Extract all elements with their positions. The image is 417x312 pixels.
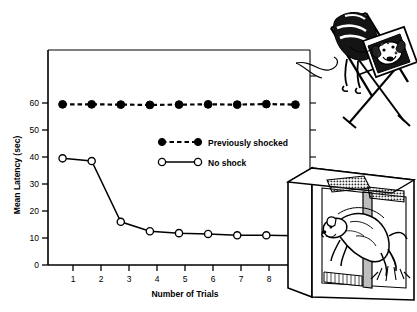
learned-helplessness-figure: 0 10 20 30 40 50 60 Mean Latency (sec) 1… [0,0,417,312]
data-series-layer [59,100,300,239]
x-tick-label-5: 5 [183,274,188,284]
data-point [88,100,96,108]
chart-legend: Previously shocked No shock [158,138,287,168]
data-point [117,101,125,109]
data-point [59,100,67,108]
legend-marker-filled-circle [194,138,201,145]
data-point [205,230,212,237]
x-tick-label-6: 6 [211,274,216,284]
data-point [233,101,241,109]
x-axis-ticks [73,265,297,271]
series-no-shock [59,155,299,240]
legend-marker-filled-circle [158,138,165,145]
x-tick-label-7: 7 [239,274,244,284]
chart-canvas: 0 10 20 30 40 50 60 Mean Latency (sec) 1… [0,0,417,312]
legend-label-previously-shocked: Previously shocked [208,138,288,148]
y-axis-ticks [42,103,48,265]
legend-label-no-shock: No shock [208,158,247,168]
data-point [117,218,124,225]
x-tick-label-8: 8 [267,274,272,284]
series-line [63,158,296,235]
y-tick-label-0: 0 [34,260,39,270]
data-point [59,155,66,162]
legend-marker-open-circle [158,158,165,165]
x-axis-title: Number of Trials [151,289,218,299]
data-point [175,101,183,109]
y-tick-label-30: 30 [30,179,40,189]
data-point [234,232,241,239]
y-axis-title: Mean Latency (sec) [12,136,22,215]
series-previously-shocked [59,100,300,109]
legend-entry-no-shock: No shock [158,158,246,168]
x-axis-tick-labels: 1 2 3 4 5 6 7 8 9 [71,274,300,284]
y-axis-tick-labels: 0 10 20 30 40 50 60 [30,98,40,270]
legend-entry-previously-shocked: Previously shocked [158,138,287,148]
data-point [262,100,270,108]
dog-jumping-shuttle-box-illustration: Dog jumping the barrier in a two-compart… [288,168,414,300]
y-tick-label-50: 50 [30,125,40,135]
x-tick-label-3: 3 [127,274,132,284]
data-point [88,157,95,164]
data-point [175,230,182,237]
y-tick-label-60: 60 [30,98,40,108]
data-point [204,100,212,108]
legend-marker-open-circle [194,158,201,165]
dog-in-restraining-hammock-illustration: Dog suspended in a restraining hammock a… [296,12,417,128]
data-point [292,101,300,109]
x-tick-label-4: 4 [155,274,160,284]
x-tick-label-2: 2 [99,274,104,284]
y-tick-label-10: 10 [30,233,40,243]
data-point [146,228,153,235]
y-tick-label-20: 20 [30,206,40,216]
x-tick-label-1: 1 [71,274,76,284]
data-point [146,101,154,109]
y-tick-label-40: 40 [30,152,40,162]
data-point [263,232,270,239]
